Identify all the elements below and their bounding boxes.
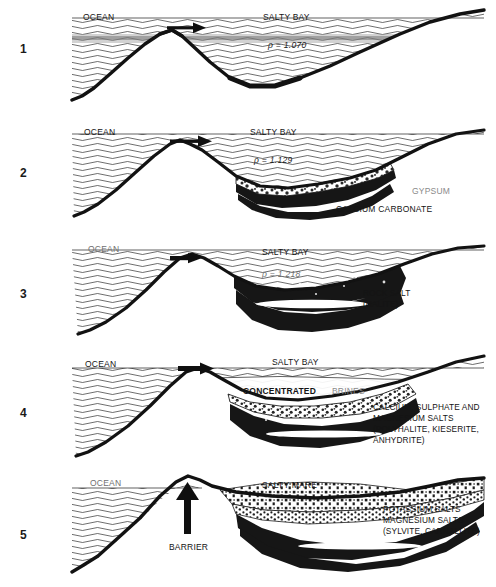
panel-number: 5 [20,528,27,542]
panel-stage-1: 1 [0,0,496,110]
density-label: ρ = 1.070 [268,40,307,50]
panel-stage-2: 2 [0,118,496,226]
basin-label: SALTY BAY [250,127,297,137]
density-label: ρ = 1.218 [262,269,301,279]
ocean-label: OCEAN [90,478,121,488]
ocean-label: OCEAN [83,12,114,22]
salt-void [266,430,382,437]
barrier-label: BARRIER [169,542,208,552]
ocean-label: OCEAN [88,244,119,254]
concentrated-brines-label-dark: CONCENTRATED [243,386,316,396]
basin-label: SALTY MARE [262,480,317,490]
basin-label: SALTY BAY [263,12,310,22]
basin-label: SALTY BAY [272,357,319,367]
salt-void [298,543,422,550]
calcium-carbonate-label: CALCIUM CARBONATE [336,204,432,214]
figure-caption [28,578,468,587]
density-label: ρ = 1.129 [254,155,293,165]
panel-stage-4: 4 [0,348,496,460]
sulphate-salts-label: CALCIUM, SULPHATE AND MAGNESIUM SALTS (P… [373,402,480,446]
panel-number: 2 [20,166,27,180]
ocean-label: OCEAN [85,359,116,369]
rock-salt-label: ROCK SALT (HALITE) [363,288,410,310]
panel-stage-3: 3 [0,232,496,340]
panel-number: 3 [20,287,27,301]
concentrated-brines-label-gray: BRINES [332,386,365,396]
potassium-magnesium-salts-label: POTASSIUM SALTS MAGNESIUM SALTS (SYLVITE… [383,504,480,537]
ocean-water [60,466,240,576]
salt-void-2 [256,300,368,308]
barrier-arrow-up-icon [176,482,199,534]
panel-number: 1 [20,42,27,56]
gypsum-label: GYPSUM [412,186,450,196]
basin-label: SALTY BAY [262,247,309,257]
panel-stage-5: 5 [0,466,496,576]
ocean-label: OCEAN [84,127,115,137]
figure-page: 1 [0,0,496,587]
panel-number: 4 [20,406,27,420]
